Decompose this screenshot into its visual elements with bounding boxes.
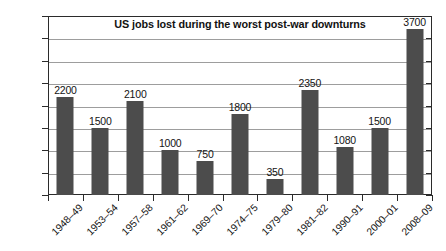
x-axis-tick-mark bbox=[432, 195, 433, 201]
bar-slot: 2200 bbox=[48, 16, 83, 195]
bar bbox=[266, 179, 283, 195]
bar-slot: 1500 bbox=[83, 16, 118, 195]
bar bbox=[231, 114, 248, 195]
bar bbox=[197, 161, 214, 195]
bar-value-label: 750 bbox=[197, 149, 214, 160]
bar-slot: 2350 bbox=[292, 16, 327, 195]
bar-value-label: 350 bbox=[266, 167, 283, 178]
bar bbox=[57, 97, 74, 195]
bar-value-label: 2350 bbox=[299, 78, 322, 89]
bar bbox=[336, 147, 353, 195]
bar-slot: 1500 bbox=[362, 16, 397, 195]
bar-slot: 350 bbox=[257, 16, 292, 195]
bar-value-label: 1800 bbox=[229, 102, 252, 113]
x-axis-labels: 1948–491953–541957–581961–621969–701974–… bbox=[48, 195, 432, 251]
bar-value-label: 2200 bbox=[54, 85, 77, 96]
bar-slot: 3700 bbox=[397, 16, 432, 195]
bar-slot: 1800 bbox=[223, 16, 258, 195]
bar-value-label: 1500 bbox=[89, 116, 112, 127]
bar-chart: 05001000150020002500300035004000 US jobs… bbox=[0, 0, 446, 251]
bars-layer: 2200150021001000750180035023501080150037… bbox=[48, 16, 432, 195]
bar bbox=[162, 150, 179, 195]
bar-value-label: 1500 bbox=[368, 116, 391, 127]
bar-slot: 1000 bbox=[153, 16, 188, 195]
bar-value-label: 2100 bbox=[124, 89, 147, 100]
bar bbox=[127, 101, 144, 195]
bar-slot: 750 bbox=[188, 16, 223, 195]
bar bbox=[92, 128, 109, 195]
bar-slot: 2100 bbox=[118, 16, 153, 195]
bar bbox=[406, 29, 423, 195]
bar bbox=[371, 128, 388, 195]
bar-slot: 1080 bbox=[327, 16, 362, 195]
bar bbox=[301, 90, 318, 195]
bar-value-label: 3700 bbox=[403, 17, 426, 28]
bar-value-label: 1080 bbox=[333, 135, 356, 146]
bar-value-label: 1000 bbox=[159, 138, 182, 149]
